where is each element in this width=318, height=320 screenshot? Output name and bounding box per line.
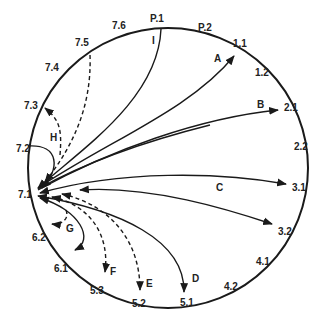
label-6-1: 6.1 xyxy=(54,263,68,274)
flow-C-upper xyxy=(40,175,286,193)
flow-A xyxy=(38,56,234,188)
flow-D xyxy=(38,196,184,292)
label-P2: P.2 xyxy=(198,22,212,33)
flow-label-D: D xyxy=(192,273,199,284)
label-7-1: 7.1 xyxy=(18,189,32,200)
flow-G xyxy=(40,198,84,250)
label-3-1: 3.1 xyxy=(292,182,306,193)
label-2-2: 2.2 xyxy=(294,141,308,152)
flow-label-B: B xyxy=(257,99,264,110)
label-7-4: 7.4 xyxy=(45,62,59,73)
flow-labels: A B C D E F G H I xyxy=(50,35,264,289)
circular-flow-diagram: P.1 P.2 1.1 1.2 2.1 2.2 3.1 3.2 4.1 4.2 … xyxy=(0,0,318,320)
label-4-2: 4.2 xyxy=(224,281,238,292)
flow-label-C: C xyxy=(216,182,223,193)
label-7-3: 7.3 xyxy=(24,100,38,111)
flow-label-I: I xyxy=(152,35,155,46)
flow-dashed-G xyxy=(52,210,67,224)
label-7-6: 7.6 xyxy=(112,20,126,31)
label-5-2: 5.2 xyxy=(132,298,146,309)
label-1-2: 1.2 xyxy=(255,67,269,78)
flow-C-lower xyxy=(80,189,272,224)
flow-I xyxy=(38,29,161,188)
flow-line xyxy=(38,125,210,189)
flow-label-F: F xyxy=(110,266,116,277)
flow-label-G: G xyxy=(66,223,74,234)
flow-label-E: E xyxy=(146,278,153,289)
flow-label-A: A xyxy=(214,53,221,64)
label-2-1: 2.1 xyxy=(284,102,298,113)
flow-label-H: H xyxy=(50,132,57,143)
label-7-5: 7.5 xyxy=(75,37,89,48)
flow-dashed-E xyxy=(62,194,140,290)
label-7-2: 7.2 xyxy=(16,143,30,154)
label-3-2: 3.2 xyxy=(278,226,292,237)
perimeter-labels: P.1 P.2 1.1 1.2 2.1 2.2 3.1 3.2 4.1 4.2 … xyxy=(16,13,308,309)
label-5-3: 5.3 xyxy=(90,285,104,296)
diagram-canvas: P.1 P.2 1.1 1.2 2.1 2.2 3.1 3.2 4.1 4.2 … xyxy=(0,0,318,320)
label-1-1: 1.1 xyxy=(233,38,247,49)
label-5-1: 5.1 xyxy=(180,297,194,308)
label-P1: P.1 xyxy=(150,13,164,24)
label-4-1: 4.1 xyxy=(256,256,270,267)
label-6-2: 6.2 xyxy=(32,232,46,243)
